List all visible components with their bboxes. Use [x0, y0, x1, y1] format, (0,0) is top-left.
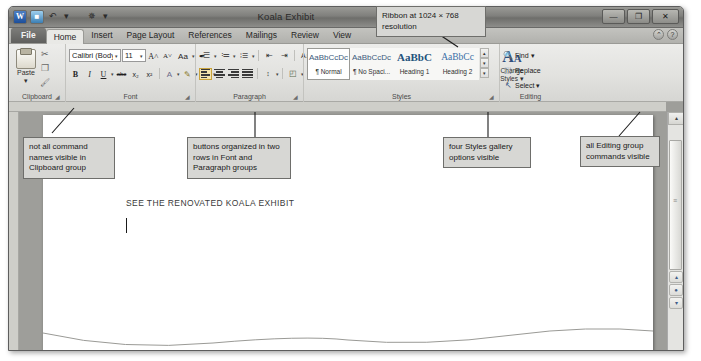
callout-ribbon-resolution-text: Ribbon at 1024 × 768 resolution — [382, 11, 459, 31]
callout-ribbon-resolution: Ribbon at 1024 × 768 resolution — [376, 6, 486, 37]
leader-line-clipboard — [52, 108, 74, 133]
callout-editing: all Editing group commands visible — [580, 136, 660, 167]
callout-editing-text: all Editing group commands visible — [586, 141, 650, 161]
leader-lines — [0, 0, 701, 361]
callout-styles-text: four Styles gallery options visible — [449, 142, 513, 162]
callout-clipboard: not all command names visible in Clipboa… — [23, 137, 115, 179]
callout-styles: four Styles gallery options visible — [443, 137, 531, 168]
callout-clipboard-text: not all command names visible in Clipboa… — [29, 142, 88, 172]
callout-font-paragraph-text: buttons organized in two rows in Font an… — [193, 142, 280, 172]
leader-line-editing — [619, 112, 640, 136]
callout-font-paragraph: buttons organized in two rows in Font an… — [187, 137, 291, 179]
